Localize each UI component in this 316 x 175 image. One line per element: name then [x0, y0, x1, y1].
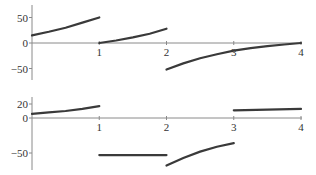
y-tick-label: 0: [23, 112, 29, 124]
x-tick-label: 4: [298, 46, 304, 58]
curve-piece-2: [99, 29, 166, 43]
top-panel: 500−501234: [11, 5, 304, 80]
y-tick-label: −50: [11, 147, 29, 159]
curve-piece-1: [32, 106, 99, 114]
x-tick-label: 2: [164, 46, 170, 58]
piecewise-function-plots: 500−501234 200−501234: [0, 0, 316, 175]
bottom-panel: 200−501234: [11, 97, 304, 170]
curve-piece-4: [234, 109, 301, 110]
curve-piece-1: [32, 18, 99, 36]
curve-piece-3: [167, 143, 234, 165]
x-tick-label: 3: [231, 121, 237, 133]
x-tick-label: 1: [97, 121, 103, 133]
x-tick-label: 2: [164, 121, 170, 133]
x-tick-label: 1: [97, 46, 103, 58]
y-tick-label: 50: [17, 12, 29, 24]
y-tick-label: 20: [17, 98, 29, 110]
y-tick-label: 0: [23, 37, 29, 49]
chart-canvas: 500−501234 200−501234: [0, 0, 316, 175]
x-tick-label: 4: [298, 121, 304, 133]
y-tick-label: −50: [11, 63, 29, 75]
